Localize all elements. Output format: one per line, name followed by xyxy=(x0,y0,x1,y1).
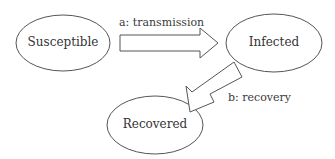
edge-transmission-label: a: transmission xyxy=(119,16,204,29)
node-infected-label: Infected xyxy=(226,35,322,49)
node-susceptible-label: Susceptible xyxy=(16,35,110,49)
node-recovered-label: Recovered xyxy=(107,117,203,131)
arrow-recovery-icon xyxy=(186,62,242,112)
edge-recovery-label: b: recovery xyxy=(228,91,291,104)
arrow-transmission-icon xyxy=(120,28,218,58)
